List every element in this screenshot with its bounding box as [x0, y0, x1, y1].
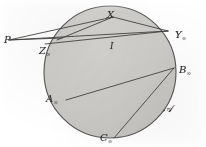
label-base: I — [110, 41, 114, 51]
disk-shape — [44, 6, 176, 138]
label-base: X — [107, 9, 114, 20]
diagram-canvas — [0, 0, 206, 147]
geometric-diagram: P X Y∞ Z∞ B∞ A∞ C∞ 𝒜 I — [0, 0, 206, 147]
label-subscript: ∞ — [54, 99, 58, 105]
label-point-y-infinity: Y∞ — [175, 25, 186, 41]
label-base: A — [46, 93, 53, 104]
label-base: B — [179, 64, 186, 75]
label-point-i: I — [110, 36, 114, 52]
label-point-x: X — [107, 5, 114, 21]
label-base: Z — [39, 45, 46, 56]
label-subscript: ∞ — [46, 51, 50, 57]
label-point-a-infinity: A∞ — [46, 89, 57, 105]
label-script-a: 𝒜 — [163, 99, 172, 115]
label-subscript: ∞ — [187, 70, 191, 76]
label-point-p: P — [4, 30, 11, 46]
label-base: 𝒜 — [163, 103, 172, 114]
label-point-z-infinity: Z∞ — [39, 41, 50, 57]
label-subscript: ∞ — [108, 138, 112, 144]
label-point-b-infinity: B∞ — [179, 60, 190, 76]
label-base: P — [4, 34, 11, 45]
label-point-c-infinity: C∞ — [100, 128, 112, 144]
label-subscript: ∞ — [182, 35, 186, 41]
label-base: Y — [175, 29, 182, 40]
label-base: C — [100, 132, 108, 143]
